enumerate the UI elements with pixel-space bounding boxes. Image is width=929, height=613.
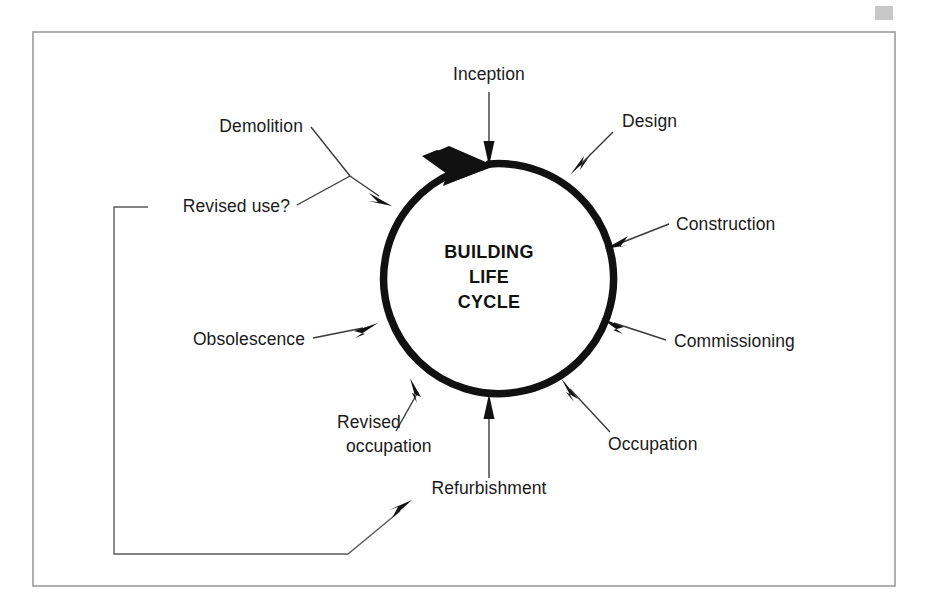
- stage-inception: Inception: [453, 64, 525, 166]
- arrow-head-revised-occupation: [410, 378, 421, 403]
- center-title-line-2: LIFE: [469, 267, 509, 287]
- corner-mark-icon: [875, 6, 893, 20]
- arrow-head-obsolescence: [354, 323, 378, 338]
- stage-occupation: Occupation: [561, 378, 698, 454]
- stage-revised-occupation: Revised occupation: [337, 378, 432, 456]
- stage-construction: Construction: [605, 214, 775, 249]
- center-title-line-3: CYCLE: [458, 292, 521, 312]
- label-revised-occupation-line1: Revised: [337, 412, 401, 432]
- stage-refurbishment: Refurbishment: [431, 394, 546, 498]
- leader-line-construction: [618, 224, 669, 244]
- feedback-loop-revised-use-to-refurbishment: [114, 207, 412, 554]
- leader-line-revised-use: [297, 176, 350, 205]
- leader-line-demolition: [311, 127, 350, 176]
- building-life-cycle-diagram: Inception Design Construction Commission…: [0, 0, 929, 613]
- stage-design: Design: [570, 111, 677, 175]
- leader-line-demolition-revised-join: [350, 176, 379, 196]
- leader-line-commissioning: [614, 323, 666, 340]
- arrow-head-refurbishment: [484, 394, 495, 419]
- label-revised-occupation-line2: occupation: [346, 436, 432, 456]
- arrow-head-feedback-loop: [389, 500, 412, 518]
- center-title: BUILDING LIFE CYCLE: [444, 242, 533, 312]
- center-title-line-1: BUILDING: [444, 242, 533, 262]
- label-refurbishment: Refurbishment: [431, 478, 546, 498]
- leader-line-design: [579, 132, 613, 166]
- label-design: Design: [622, 111, 677, 131]
- label-inception: Inception: [453, 64, 525, 84]
- stage-commissioning: Commissioning: [601, 318, 795, 351]
- label-revised-use: Revised use?: [183, 196, 290, 216]
- label-construction: Construction: [676, 214, 775, 234]
- label-obsolescence: Obsolescence: [193, 329, 305, 349]
- leader-line-occupation: [570, 389, 610, 432]
- stage-obsolescence: Obsolescence: [193, 323, 378, 349]
- leader-line-obsolescence: [313, 328, 363, 338]
- label-demolition: Demolition: [219, 116, 303, 136]
- label-commissioning: Commissioning: [674, 331, 795, 351]
- stage-revised-use: Revised use?: [183, 176, 392, 216]
- arrow-head-occupation: [561, 378, 578, 402]
- label-occupation: Occupation: [608, 434, 698, 454]
- stage-demolition: Demolition: [219, 116, 350, 176]
- figure-root: Inception Design Construction Commission…: [0, 0, 929, 613]
- arrow-head-demolition-revised-use: [368, 193, 392, 206]
